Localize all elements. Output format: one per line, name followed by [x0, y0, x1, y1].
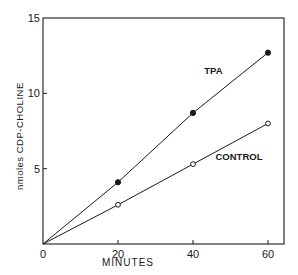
y-tick-label: 10	[28, 87, 40, 99]
axes-box	[43, 18, 284, 244]
data-point-tpa	[190, 110, 195, 115]
x-axis-ticks: 0204060	[40, 240, 274, 260]
y-tick-label: 5	[34, 163, 40, 175]
x-tick-label: 40	[187, 248, 199, 260]
data-point-control	[116, 202, 121, 207]
plot-frame	[43, 18, 284, 244]
series-labels: TPACONTROL	[204, 65, 262, 162]
y-axis-ticks: 51015	[28, 12, 47, 175]
x-tick-label: 0	[40, 248, 46, 260]
line-chart: 51015 0204060 TPACONTROL MINUTES nmoles …	[0, 0, 298, 275]
y-axis-label: nmoles CDP-CHOLINE	[14, 82, 25, 190]
data-series	[43, 50, 271, 244]
series-line-control	[43, 123, 268, 244]
data-point-tpa	[115, 180, 120, 185]
series-label-control: CONTROL	[216, 151, 263, 162]
x-tick-label: 60	[262, 248, 274, 260]
data-point-control	[191, 162, 196, 167]
x-axis-label: MINUTES	[102, 257, 154, 268]
series-line-tpa	[43, 53, 268, 244]
data-point-control	[266, 121, 271, 126]
series-label-tpa: TPA	[204, 65, 222, 76]
data-point-tpa	[265, 50, 270, 55]
y-tick-label: 15	[28, 12, 40, 24]
